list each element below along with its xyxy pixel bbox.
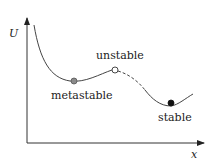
potential-energy-diagram: U x metastable unstable stable <box>0 0 214 162</box>
x-axis-label: x <box>191 148 198 161</box>
stable-label: stable <box>158 111 192 124</box>
stable-ball <box>168 100 174 106</box>
unstable-label: unstable <box>96 49 144 62</box>
metastable-label: metastable <box>51 89 113 102</box>
y-axis-label: U <box>9 27 19 40</box>
unstable-ball <box>112 67 118 73</box>
metastable-ball <box>71 78 77 84</box>
potential-curve-dashed <box>118 71 145 90</box>
